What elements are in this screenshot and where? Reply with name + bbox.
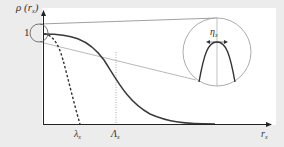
lambda-big-sub: x — [117, 134, 120, 140]
y-axis-label: ρ (rx) — [16, 1, 38, 14]
y-axis-paren-close: ) — [35, 1, 39, 13]
x-axis-sub: x — [265, 134, 268, 140]
x-axis-label: rx — [261, 128, 268, 140]
y-axis-symbol: ρ — [16, 1, 21, 13]
eta-label: ηx — [210, 26, 218, 38]
lambda-small-sub: x — [78, 134, 81, 140]
diagram-canvas — [0, 0, 284, 147]
lambda-big-label: Λx — [111, 128, 120, 140]
eta-sub: x — [215, 32, 218, 38]
y-tick-one: 1 — [24, 26, 30, 38]
lambda-small-label: λx — [74, 128, 81, 140]
